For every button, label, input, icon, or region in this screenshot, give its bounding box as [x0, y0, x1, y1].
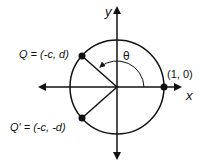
- radius-q: [82, 56, 117, 87]
- point-q: [79, 53, 86, 60]
- point-q-prime: [79, 115, 86, 122]
- point-unit: [161, 84, 168, 91]
- point-q-prime-label: Q' = (-c, -d): [10, 121, 66, 133]
- unit-circle-diagram: y x θ Q = (-c, d) Q' = (-c, -d) (1, 0): [0, 0, 206, 163]
- x-axis-label: x: [185, 88, 193, 103]
- radius-q-prime: [82, 87, 117, 118]
- point-unit-label: (1, 0): [167, 68, 193, 80]
- point-q-label: Q = (-c, d): [19, 48, 69, 60]
- angle-theta-label: θ: [123, 49, 130, 63]
- angle-theta-arc: [100, 61, 144, 87]
- y-axis-label: y: [104, 4, 113, 19]
